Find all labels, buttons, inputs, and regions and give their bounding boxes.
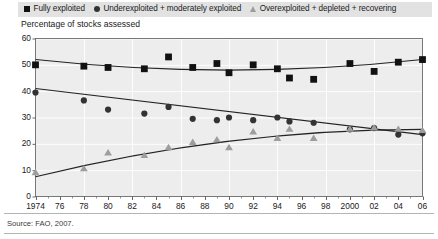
data-point-square (274, 65, 281, 72)
data-point-square (419, 56, 426, 63)
data-point-square (105, 64, 112, 71)
data-point-circle (32, 89, 38, 95)
y-axis-tick-label: 20 (13, 139, 31, 147)
data-point-square (189, 64, 196, 71)
data-point-square (214, 60, 221, 67)
source-note: Source: FAO, 2007. (7, 219, 74, 228)
data-point-square (347, 60, 354, 67)
data-point-square (80, 63, 87, 70)
y-axis-tick-label: 30 (13, 113, 31, 121)
data-point-square (165, 54, 172, 61)
data-point-circle (311, 120, 317, 126)
source-divider-bottom (4, 233, 434, 234)
data-point-circle (81, 97, 87, 103)
data-point-circle (250, 117, 256, 123)
data-point-square (226, 69, 233, 76)
data-point-square (32, 61, 39, 68)
y-axis-tick-label: 40 (13, 87, 31, 95)
figure-fish-stock-status: Fully exploited Underexploited + moderat… (0, 0, 438, 239)
data-point-square (250, 61, 257, 68)
y-axis-tick-label: 50 (13, 60, 31, 68)
data-point-circle (286, 118, 292, 124)
data-point-circle (165, 104, 171, 110)
x-axis-tick-label: 06 (408, 202, 438, 210)
data-point-circle (190, 116, 196, 122)
data-point-square (286, 75, 293, 82)
data-point-square (371, 68, 378, 75)
y-axis-tick-label: 10 (13, 166, 31, 174)
data-point-square (141, 65, 148, 72)
data-point-square (395, 59, 402, 66)
data-point-circle (105, 107, 111, 113)
data-point-circle (141, 110, 147, 116)
data-point-circle (274, 114, 280, 120)
plot-area-container: 0102030405060 19747678808284868890929496… (0, 0, 438, 239)
data-point-circle (214, 117, 220, 123)
data-point-square (310, 76, 317, 83)
y-axis-tick-label: 60 (13, 34, 31, 42)
y-axis-tick-label: 0 (13, 192, 31, 200)
source-divider-top (4, 213, 434, 214)
data-point-circle (226, 114, 232, 120)
data-point-circle (395, 132, 401, 138)
